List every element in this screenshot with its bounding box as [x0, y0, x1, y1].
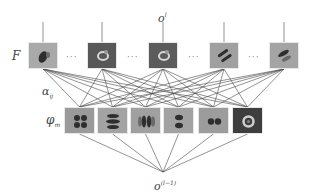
- basis-filter-image: [130, 107, 161, 134]
- basis-label: φm: [46, 114, 60, 128]
- filter-image: [148, 42, 178, 69]
- output-label: ol: [158, 12, 167, 24]
- basis-filter-image: [198, 107, 229, 134]
- basis-filter-image: [232, 107, 263, 134]
- filters-label: F: [12, 50, 20, 62]
- basis-pattern-icon: [65, 108, 95, 134]
- input-superscript: (l−1): [161, 179, 176, 186]
- filter-image: [269, 42, 299, 69]
- ellipsis: ···: [188, 52, 200, 62]
- filter-pattern-icon: [88, 43, 117, 69]
- ellipsis: ···: [66, 52, 78, 62]
- coefficients-label: αij: [42, 86, 53, 99]
- filter-image: [87, 42, 117, 69]
- basis-pattern-icon: [164, 108, 194, 134]
- coefficients-subscript: ij: [49, 92, 53, 99]
- filters-symbol: F: [12, 49, 20, 63]
- filter-pattern-icon: [210, 43, 239, 69]
- basis-pattern-icon: [233, 108, 263, 134]
- filter-pattern-icon: [270, 43, 299, 69]
- basis-filter-image: [64, 107, 95, 134]
- basis-pattern-icon: [131, 108, 161, 134]
- output-superscript: l: [165, 11, 167, 18]
- basis-filter-image: [97, 107, 128, 134]
- filter-image: [209, 42, 239, 69]
- basis-pattern-icon: [98, 108, 128, 134]
- basis-subscript: m: [54, 121, 60, 128]
- filter-image: [28, 42, 58, 69]
- input-label: o(l−1): [154, 180, 176, 192]
- input-symbol: o: [154, 180, 161, 193]
- filter-pattern-icon: [29, 43, 58, 69]
- filter-pattern-icon: [149, 43, 178, 69]
- basis-filter-image: [163, 107, 194, 134]
- ellipsis: ···: [248, 52, 260, 62]
- ellipsis: ···: [127, 52, 139, 62]
- basis-pattern-icon: [199, 108, 229, 134]
- output-symbol: o: [158, 12, 165, 25]
